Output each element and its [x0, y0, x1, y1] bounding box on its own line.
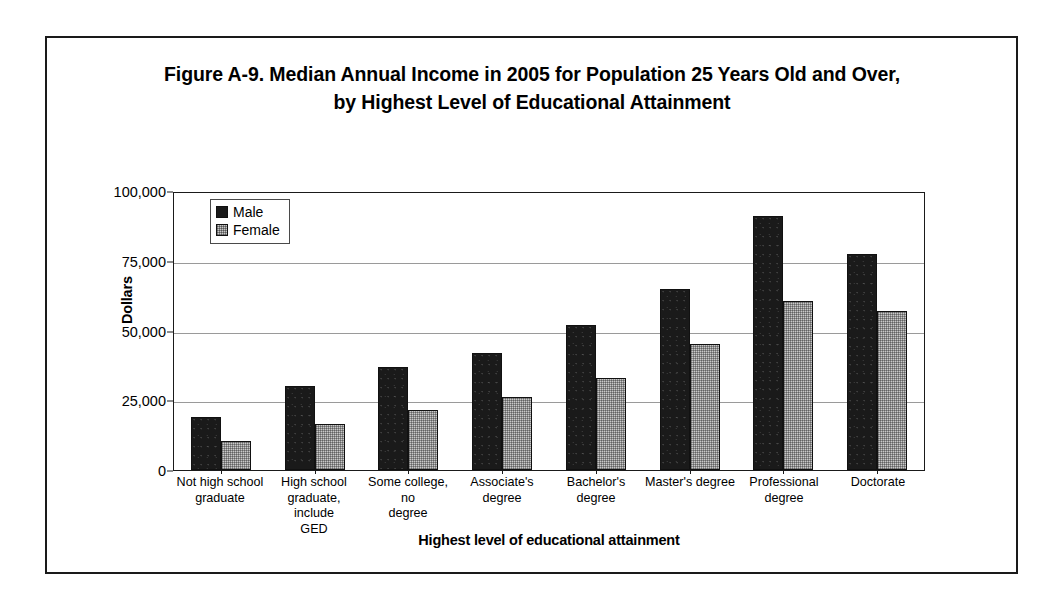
bar-group [830, 193, 924, 470]
x-axis-tick-labels: Not high schoolgraduateHigh schoolgradua… [173, 475, 925, 537]
x-tick-mark [221, 470, 222, 474]
bar-group [549, 193, 643, 470]
x-tick-mark [502, 470, 503, 474]
figure-title-line-1: Figure A-9. Median Annual Income in 2005… [107, 60, 957, 88]
x-tick-label-line: Associate's [457, 475, 547, 491]
x-tick-label-line: graduate, include [269, 491, 359, 522]
x-tick-label: Associate'sdegree [455, 475, 549, 537]
bar-male [191, 417, 221, 470]
bar-group [455, 193, 549, 470]
y-tick-label-0: 0 [158, 463, 166, 479]
bar-male [378, 367, 408, 470]
bar-female [690, 344, 720, 470]
bar-female [783, 301, 813, 470]
legend-item-female: Female [216, 221, 280, 239]
x-tick-mark [690, 470, 691, 474]
y-tick-label-50000: 50,000 [122, 324, 166, 340]
bar-female [596, 378, 626, 470]
chart-legend: MaleFemale [210, 199, 290, 244]
legend-item-male: Male [216, 203, 280, 221]
x-tick-mark [877, 470, 878, 474]
bar-female [502, 397, 532, 470]
figure-title-line-2: by Highest Level of Educational Attainme… [107, 88, 957, 116]
x-tick-label: Not high schoolgraduate [173, 475, 267, 537]
x-tick-label-line: Some college, no [363, 475, 453, 506]
x-tick-label-line: graduate [175, 491, 265, 507]
x-tick-mark [408, 470, 409, 474]
x-tick-label: Doctorate [831, 475, 925, 537]
bar-female [408, 410, 438, 470]
x-tick-label-line: Not high school [175, 475, 265, 491]
x-tick-mark [596, 470, 597, 474]
legend-label: Female [233, 222, 280, 238]
x-tick-label-line: degree [551, 491, 641, 507]
bar-female [221, 441, 251, 470]
x-tick-label: Bachelor'sdegree [549, 475, 643, 537]
x-tick-label-line: Professional [739, 475, 829, 491]
figure-frame: Figure A-9. Median Annual Income in 2005… [45, 36, 1018, 574]
y-axis-tick-labels: 025,00050,00075,000100,000 [93, 192, 173, 471]
bar-male [753, 216, 783, 470]
bar-group [737, 193, 831, 470]
x-tick-label-line: High school [269, 475, 359, 491]
legend-label: Male [233, 204, 263, 220]
bar-group [643, 193, 737, 470]
x-tick-label-line: Doctorate [833, 475, 923, 491]
bar-female [877, 311, 907, 470]
legend-swatch-male-icon [216, 206, 228, 218]
x-axis-title: Highest level of educational attainment [173, 532, 925, 548]
x-tick-label-line: Bachelor's [551, 475, 641, 491]
bar-female [315, 424, 345, 470]
x-tick-label-line: Master's degree [645, 475, 735, 491]
x-tick-label: Professionaldegree [737, 475, 831, 537]
bar-male [660, 289, 690, 470]
x-tick-mark [315, 470, 316, 474]
x-tick-label-line: degree [739, 491, 829, 507]
y-tick-label-25000: 25,000 [122, 393, 166, 409]
x-tick-label: Master's degree [643, 475, 737, 537]
y-tick-label-75000: 75,000 [122, 254, 166, 270]
x-tick-mark [783, 470, 784, 474]
bar-male [285, 386, 315, 470]
bar-male [847, 254, 877, 470]
figure-title: Figure A-9. Median Annual Income in 2005… [107, 60, 957, 116]
plot-area: MaleFemale [173, 192, 925, 471]
bar-male [472, 353, 502, 470]
legend-swatch-female-icon [216, 224, 228, 236]
x-tick-label: Some college, nodegree [361, 475, 455, 537]
bar-male [566, 325, 596, 470]
x-tick-label-line: degree [457, 491, 547, 507]
y-tick-label-100000: 100,000 [114, 184, 166, 200]
bar-group [362, 193, 456, 470]
x-tick-label: High schoolgraduate, includeGED [267, 475, 361, 537]
x-tick-label-line: degree [363, 506, 453, 522]
